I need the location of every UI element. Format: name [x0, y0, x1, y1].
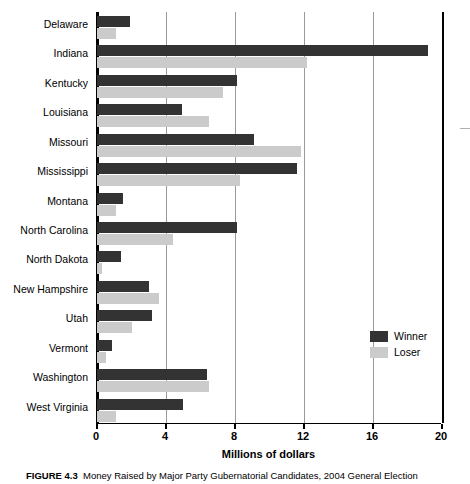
page-rule	[460, 128, 470, 129]
bar-loser	[97, 175, 240, 186]
bar-winner	[97, 134, 254, 145]
bar-winner	[97, 310, 152, 321]
figure-number: FIGURE 4.3	[26, 470, 78, 481]
category-label-west-virginia: West Virginia	[27, 401, 88, 413]
legend-label-loser: Loser	[394, 346, 420, 358]
bar-group	[97, 75, 441, 100]
tick-label-8: 8	[231, 430, 237, 442]
bar-winner	[97, 369, 207, 380]
plot-area	[96, 12, 441, 424]
bar-winner	[97, 193, 123, 204]
bar-group	[97, 251, 441, 276]
bar-loser	[97, 381, 209, 392]
legend-label-winner: Winner	[394, 330, 427, 342]
legend-swatch-winner	[370, 331, 388, 342]
figure-caption: FIGURE 4.3 Money Raised by Major Party G…	[26, 470, 456, 482]
tick-label-0: 0	[93, 430, 99, 442]
tick-label-16: 16	[366, 430, 378, 442]
category-label-new-hampshire: New Hampshire	[13, 283, 88, 295]
tick-label-12: 12	[297, 430, 309, 442]
bar-group	[97, 399, 441, 424]
bar-winner	[97, 281, 149, 292]
bar-loser	[97, 322, 132, 333]
bar-winner	[97, 251, 121, 262]
tick-mark-0	[96, 424, 98, 429]
category-label-delaware: Delaware	[44, 18, 88, 30]
category-label-montana: Montana	[47, 195, 88, 207]
bar-loser	[97, 146, 301, 157]
category-label-north-carolina: North Carolina	[20, 224, 88, 236]
bar-group	[97, 134, 441, 159]
category-label-kentucky: Kentucky	[45, 77, 88, 89]
tick-mark-4	[165, 424, 167, 429]
bar-group	[97, 369, 441, 394]
bar-loser	[97, 28, 116, 39]
legend-item-loser: Loser	[370, 346, 450, 358]
bar-loser	[97, 411, 116, 422]
tick-label-20: 20	[435, 430, 447, 442]
tick-mark-20	[441, 424, 443, 429]
bar-winner	[97, 16, 130, 27]
legend-swatch-loser	[370, 347, 388, 358]
bar-loser	[97, 116, 209, 127]
bar-winner	[97, 104, 182, 115]
bar-group	[97, 281, 441, 306]
bar-winner	[97, 163, 297, 174]
caption-body: Money Raised by Major Party Gubernatoria…	[83, 470, 418, 481]
category-label-washington: Washington	[33, 371, 88, 383]
tick-label-4: 4	[162, 430, 168, 442]
category-label-louisiana: Louisiana	[43, 106, 88, 118]
bar-group	[97, 163, 441, 188]
x-axis-title: Millions of dollars	[96, 448, 441, 460]
tick-mark-12	[303, 424, 305, 429]
category-label-north-dakota: North Dakota	[26, 253, 88, 265]
bar-group	[97, 104, 441, 129]
bar-winner	[97, 222, 237, 233]
category-label-missouri: Missouri	[49, 136, 88, 148]
bar-group	[97, 45, 441, 70]
bar-loser	[97, 205, 116, 216]
category-label-utah: Utah	[66, 312, 88, 324]
tick-mark-8	[234, 424, 236, 429]
figure-container: DelawareIndianaKentuckyLouisianaMissouri…	[0, 0, 470, 484]
bar-loser	[97, 57, 307, 68]
bar-group	[97, 222, 441, 247]
bar-winner	[97, 399, 183, 410]
category-axis-labels: DelawareIndianaKentuckyLouisianaMissouri…	[0, 12, 92, 424]
category-label-mississippi: Mississippi	[37, 165, 88, 177]
bar-winner	[97, 45, 428, 56]
bar-group	[97, 16, 441, 41]
category-label-indiana: Indiana	[54, 47, 88, 59]
tick-mark-16	[372, 424, 374, 429]
value-axis-ticks: 048121620	[96, 424, 441, 444]
bar-loser	[97, 263, 102, 274]
bar-group	[97, 193, 441, 218]
bar-loser	[97, 234, 173, 245]
bar-loser	[97, 87, 223, 98]
bar-loser	[97, 293, 159, 304]
bar-winner	[97, 75, 237, 86]
category-label-vermont: Vermont	[49, 342, 88, 354]
chart-legend: WinnerLoser	[370, 330, 450, 362]
bar-winner	[97, 340, 112, 351]
bar-loser	[97, 352, 106, 363]
legend-item-winner: Winner	[370, 330, 450, 342]
